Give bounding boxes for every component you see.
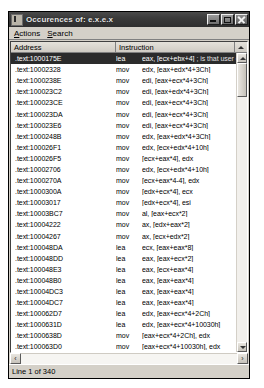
column-header-row: Address Instruction	[11, 42, 247, 53]
row-mnemonic: lea	[116, 55, 142, 62]
table-row[interactable]: .text:1000631Dleaedx, [eax+ecx*4+10030h]	[11, 319, 236, 330]
table-row[interactable]: .text:10004DC3leaeax, [eax+eax*4]	[11, 286, 236, 297]
status-bar: Line 1 of 340	[9, 364, 249, 378]
row-operands: edx, [eax+edx*4+3Ch]	[142, 66, 236, 73]
row-mnemonic: mov	[116, 144, 142, 151]
row-address: .text:100023E6	[11, 122, 116, 129]
row-mnemonic: lea	[116, 244, 142, 251]
row-operands-text: edx, [ecx+edx*4+10h]	[142, 166, 209, 173]
vertical-scroll-thumb[interactable]	[237, 63, 247, 97]
row-mnemonic: mov	[116, 210, 142, 217]
row-operands-text: ecx, [eax+eax*8]	[142, 244, 193, 251]
horizontal-scroll-track[interactable]	[21, 353, 237, 364]
table-row[interactable]: .text:100026F1movedx, [ecx+edx*4+10h]	[11, 142, 236, 153]
row-address: .text:10004DC3	[11, 288, 116, 295]
menu-actions-label: ctions	[19, 29, 40, 38]
table-row[interactable]: .text:1000175Eleaeax, [ecx+ebx+4] ; is t…	[11, 53, 236, 64]
row-mnemonic: mov	[116, 177, 142, 184]
table-row[interactable]: .text:100023CEmovedi, [eax+ecx*4+3Ch]	[11, 97, 236, 108]
row-operands: edx, [ecx+edx*4+10h]	[142, 144, 236, 151]
row-operands-text: [eax+ecx*4+10030h], edx	[142, 343, 220, 350]
table-row[interactable]: .text:100023DAmovedi, [eax+ecx*4+3Ch]	[11, 108, 236, 119]
row-address: .text:10003BC7	[11, 210, 116, 217]
row-mnemonic: mov	[116, 332, 142, 339]
row-operands: eax, [eax+ecx*2]	[142, 255, 236, 262]
table-row[interactable]: .text:100048DDleaeax, [eax+ecx*2]	[11, 253, 236, 264]
row-address: .text:100062D7	[11, 310, 116, 317]
scroll-down-arrow-icon[interactable]	[237, 342, 247, 352]
row-address: .text:100048B0	[11, 277, 116, 284]
table-row[interactable]: .text:100062D7leaedx, [eax+ecx*4+2Ch]	[11, 308, 236, 319]
row-operands-text: eax, [eax+eax*4]	[142, 277, 194, 284]
row-address: .text:100048DD	[11, 255, 116, 262]
column-header-instruction[interactable]: Instruction	[116, 42, 235, 52]
row-operands: edx, [eax+edx*4+3Ch]	[142, 133, 236, 140]
row-mnemonic: mov	[116, 122, 142, 129]
row-operands: edi, [eax+edx*4+3Ch]	[142, 88, 236, 95]
table-row[interactable]: .text:1000270Amov[ecx+eax*4-4], edx	[11, 175, 236, 186]
table-row[interactable]: .text:1000300Amov[edx+ecx*4], ecx	[11, 186, 236, 197]
row-operands-text: [edx+ecx*4], esi	[142, 199, 191, 206]
table-row[interactable]: .text:100023C2movedi, [eax+edx*4+3Ch]	[11, 86, 236, 97]
table-row[interactable]: .text:1000238Emovedi, [eax+ecx*4+3Ch]	[11, 75, 236, 86]
maximize-button[interactable]	[221, 14, 234, 25]
title-bar[interactable]: Occurences of: e.x.e.x	[9, 12, 249, 27]
row-operands: eax, [eax+eax*4]	[142, 299, 236, 306]
table-row[interactable]: .text:100048DAleaecx, [eax+eax*8]	[11, 242, 236, 253]
table-row[interactable]: .text:10003BC7moval, [eax+ecx*2]	[11, 208, 236, 219]
menu-item-search[interactable]: Search	[45, 29, 77, 38]
row-mnemonic: mov	[116, 155, 142, 162]
table-row[interactable]: .text:100026F5mov[ecx+eax*4], edx	[11, 153, 236, 164]
table-row[interactable]: .text:100048B0leaeax, [eax+eax*4]	[11, 275, 236, 286]
row-mnemonic: lea	[116, 310, 142, 317]
table-row[interactable]: .text:10002706movedx, [ecx+edx*4+10h]	[11, 164, 236, 175]
minimize-button[interactable]	[207, 14, 220, 25]
row-address: .text:10003017	[11, 199, 116, 206]
row-operands: eax, [eax+eax*4]	[142, 288, 236, 295]
row-address: .text:100048DA	[11, 244, 116, 251]
table-row[interactable]: .text:10002328movedx, [eax+edx*4+3Ch]	[11, 64, 236, 75]
row-operands-text: edi, [eax+ecx*4+3Ch]	[142, 99, 208, 106]
horizontal-scrollbar[interactable]: ‹ ›	[10, 353, 248, 364]
table-row[interactable]: .text:1000248Bmovedx, [eax+edx*4+3Ch]	[11, 131, 236, 142]
row-operands: ax, [ecx+edx*2]	[142, 233, 236, 240]
row-mnemonic: mov	[116, 133, 142, 140]
row-operands: ecx, [eax+eax*8]	[142, 244, 236, 251]
vertical-scrollbar[interactable]	[236, 53, 247, 352]
row-operands-text: ax, [edx+eax*2]	[142, 221, 190, 228]
row-mnemonic: mov	[116, 77, 142, 84]
scroll-left-arrow-icon[interactable]: ‹	[10, 353, 21, 364]
table-row[interactable]: .text:100063D0mov[eax+ecx*4+10030h], edx	[11, 341, 236, 352]
table-row[interactable]: .text:100023E6movedi, [eax+ecx*4+3Ch]	[11, 120, 236, 131]
row-operands-text: eax, [ecx+ebx+4]	[142, 55, 195, 62]
table-row[interactable]: .text:10004222movax, [edx+eax*2]	[11, 219, 236, 230]
row-address: .text:10002328	[11, 66, 116, 73]
column-header-address[interactable]: Address	[11, 42, 116, 52]
column-header-menu-icon[interactable]	[235, 42, 247, 52]
row-operands-text: eax, [ecx+eax*4]	[142, 266, 193, 273]
row-address: .text:10004267	[11, 233, 116, 240]
menu-item-actions[interactable]: Actions	[12, 29, 45, 38]
table-row[interactable]: .text:1000638Dmov[eax+ecx*4+2Ch], edx	[11, 330, 236, 341]
table-row[interactable]: .text:10004267movax, [ecx+edx*2]	[11, 231, 236, 242]
row-operands-text: edx, [eax+ecx*4+10030h]	[142, 321, 220, 328]
application-icon	[11, 14, 23, 26]
table-row[interactable]: .text:10003017mov[edx+ecx*4], esi	[11, 197, 236, 208]
scroll-up-arrow-icon[interactable]	[237, 53, 247, 63]
row-mnemonic: mov	[116, 233, 142, 240]
table-row[interactable]: .text:10004DC7leaeax, [eax+eax*4]	[11, 297, 236, 308]
row-operands: edi, [eax+ecx*4+3Ch]	[142, 122, 236, 129]
row-operands-text: [ecx+eax*4], edx	[142, 155, 193, 162]
row-mnemonic: mov	[116, 88, 142, 95]
row-operands: al, [eax+ecx*2]	[142, 210, 236, 217]
table-row[interactable]: .text:100048E3leaeax, [ecx+eax*4]	[11, 264, 236, 275]
row-operands-text: [ecx+eax*4-4], edx	[142, 177, 199, 184]
row-mnemonic: lea	[116, 288, 142, 295]
menu-bar: Actions Search	[9, 27, 249, 40]
scroll-right-arrow-icon[interactable]: ›	[237, 353, 248, 364]
row-operands-text: [edx+ecx*4], ecx	[142, 188, 193, 195]
row-address: .text:10004DC7	[11, 299, 116, 306]
vertical-scroll-track[interactable]	[237, 63, 247, 342]
row-comment: ; is that user controlled?	[196, 55, 236, 62]
close-button[interactable]	[235, 14, 248, 25]
